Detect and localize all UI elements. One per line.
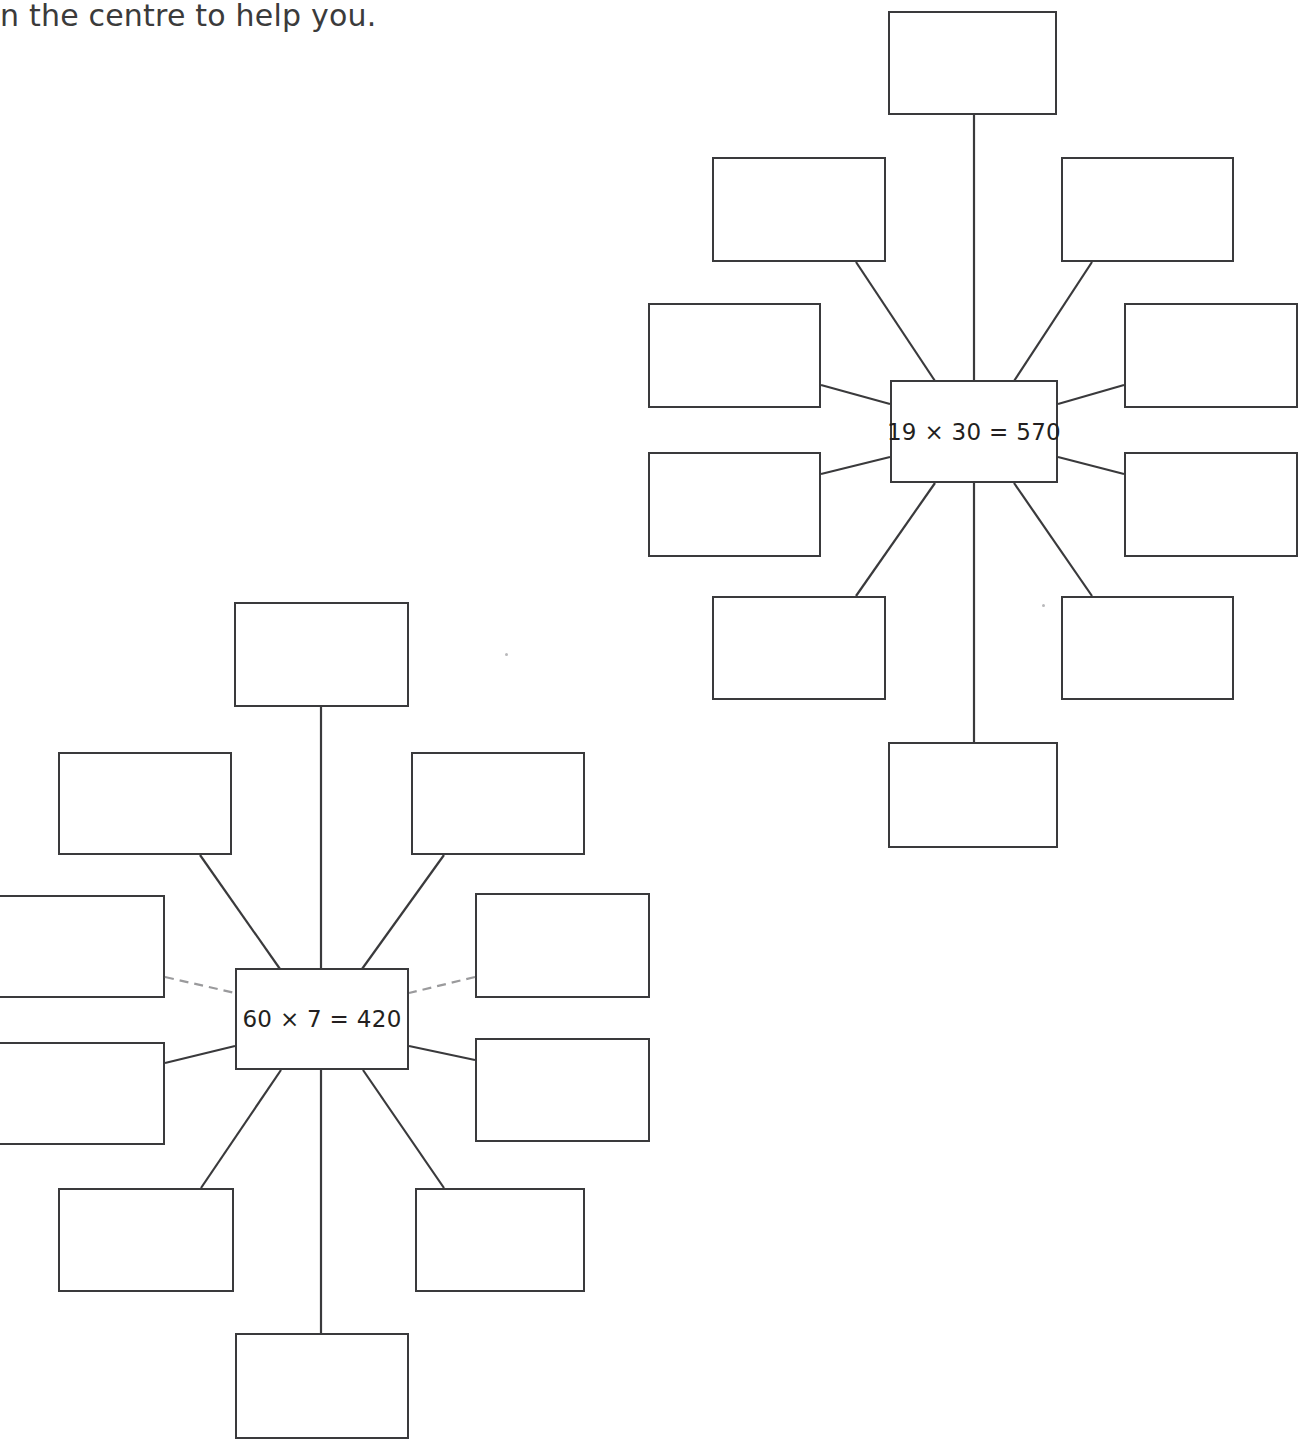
answer-box[interactable] [1061, 157, 1234, 262]
center-fact-label: 60 × 7 = 420 [242, 1006, 401, 1032]
center-fact-box: 60 × 7 = 420 [235, 968, 409, 1070]
connector-line [200, 855, 280, 969]
connector-line [856, 262, 935, 381]
answer-box[interactable] [234, 602, 409, 707]
answer-box[interactable] [712, 596, 886, 700]
connector-line [856, 483, 935, 596]
answer-box[interactable] [648, 303, 821, 408]
answer-box[interactable] [0, 1042, 165, 1145]
stray-speck [505, 653, 508, 656]
center-fact-label: 19 × 30 = 570 [887, 419, 1061, 445]
stray-speck [1042, 604, 1045, 607]
connector-line [362, 855, 444, 969]
center-fact-box: 19 × 30 = 570 [890, 380, 1058, 483]
connector-line [363, 1070, 444, 1188]
connector-line [1058, 385, 1124, 404]
answer-box[interactable] [235, 1333, 409, 1439]
answer-box[interactable] [0, 895, 165, 998]
connector-line [1014, 262, 1092, 381]
connector-line [409, 1046, 475, 1060]
answer-box[interactable] [415, 1188, 585, 1292]
answer-box[interactable] [1124, 303, 1298, 408]
connector-line [1058, 457, 1124, 474]
answer-box[interactable] [1061, 596, 1234, 700]
answer-box[interactable] [411, 752, 585, 855]
connector-line [821, 385, 890, 404]
answer-box[interactable] [58, 752, 232, 855]
answer-box[interactable] [1124, 452, 1298, 557]
answer-box[interactable] [475, 1038, 650, 1142]
answer-box[interactable] [58, 1188, 234, 1292]
connector-line [165, 977, 235, 993]
connector-line [821, 457, 890, 474]
answer-box[interactable] [648, 452, 821, 557]
connector-line [165, 1046, 235, 1063]
answer-box[interactable] [475, 893, 650, 998]
answer-box[interactable] [888, 11, 1057, 115]
instruction-text: n the centre to help you. [0, 0, 376, 38]
answer-box[interactable] [712, 157, 886, 262]
connector-line [409, 977, 475, 993]
connector-line [201, 1070, 281, 1188]
connector-line [1014, 483, 1092, 596]
answer-box[interactable] [888, 742, 1058, 848]
